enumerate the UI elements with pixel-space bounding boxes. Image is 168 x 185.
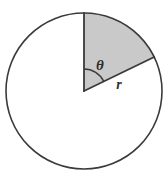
figure-container: θ r <box>0 0 168 185</box>
circle-sector-diagram: θ r <box>0 0 168 185</box>
theta-label: θ <box>96 57 104 73</box>
radius-label: r <box>116 77 122 92</box>
